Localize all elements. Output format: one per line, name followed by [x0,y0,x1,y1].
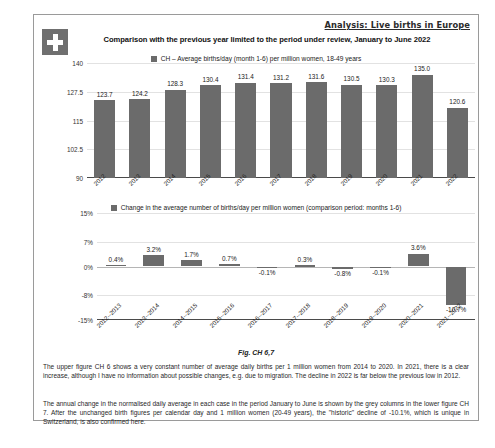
bar-value-label: 120.6 [440,98,475,105]
y-axis-tick-label: -8% [82,292,93,299]
y-axis-tick-label: 115 [73,117,83,124]
bar [181,260,202,266]
document-page: Analysis: Live births in Europe Comparis… [0,0,495,448]
bar-value-label: 131.4 [228,73,263,80]
bar [447,108,468,178]
bar [408,254,429,267]
bar [446,267,467,305]
gridline [87,63,475,64]
bar [94,100,115,178]
bar-value-label: 0.4% [97,256,135,263]
body-paragraph-1: The upper figure CH 6 shows a very const… [43,362,469,380]
bar-value-label: 1.7% [173,251,211,258]
bar [306,82,327,178]
bar [129,99,150,178]
gridline [97,267,475,268]
y-axis-tick-label: 102.5 [67,146,83,153]
bar-value-label: 3.6% [399,244,437,251]
bar [412,75,433,179]
bar [219,264,240,266]
bar [270,83,291,178]
legend-swatch-icon [111,205,117,211]
analysis-heading: Analysis: Live births in Europe [325,20,470,30]
bar-value-label: 0.7% [210,255,248,262]
chart1-legend: CH – Average births/day (month 1-6) per … [34,55,478,62]
bar-value-label: 3.2% [135,246,173,253]
bar-value-label: 130.3 [369,76,404,83]
bar [106,265,127,266]
y-axis-tick-label: 127.5 [67,88,83,95]
bar [332,267,353,270]
bar [295,265,316,266]
document-frame: Analysis: Live births in Europe Comparis… [33,14,479,421]
bar [200,85,221,178]
bar-value-label: 128.3 [158,80,193,87]
gridline [97,295,475,296]
y-axis-tick-label: 90 [76,175,83,182]
y-axis-tick-label: 140 [72,60,83,67]
chart2-x-axis: 2012--20132013--20142014--20152015--2016… [97,322,475,364]
bar [341,85,362,178]
chart2-legend: Change in the average number of births/d… [34,204,478,211]
bar-value-label: 130.4 [193,76,228,83]
page-title: Comparison with the previous year limite… [34,35,478,44]
figure-caption: Fig. CH 6,7 [34,349,478,356]
chart1-legend-label: CH – Average births/day (month 1-6) per … [161,55,362,62]
chart1-plot-area: 123.7124.2128.3130.4131.4131.2131.6130.5… [87,63,475,178]
bar-value-label: 131.6 [299,73,334,80]
chart-ch7: 0.4%3.2%1.7%0.7%-0.1%0.3%-0.8%-0.1%3.6%-… [97,213,475,320]
body-paragraph-2: The annual change in the normalised dail… [43,399,469,427]
y-axis-tick-label: 7% [84,238,93,245]
y-axis-tick-label: 0% [84,263,93,270]
gridline [97,242,475,243]
chart1-y-axis: 90102.5115127.5140 [57,63,83,178]
chart2-legend-label: Change in the average number of births/d… [121,204,402,211]
bar-value-label: -0.1% [362,269,400,276]
bar-value-label: 135.0 [404,65,439,72]
bar-value-label: 124.2 [122,90,157,97]
bar-value-label: 131.2 [263,74,298,81]
bar [257,267,278,268]
bar-value-label: -0.1% [248,269,286,276]
y-axis-tick-label: 15% [80,210,93,217]
bar [235,83,256,178]
gridline [97,213,475,214]
y-axis-tick-label: -15% [78,317,93,324]
bar-value-label: 0.3% [286,256,324,263]
bar [165,90,186,178]
chart-ch6: 123.7124.2128.3130.4131.4131.2131.6130.5… [87,63,475,178]
bar [143,255,164,266]
bar [370,267,391,268]
bar [376,85,397,178]
bar-value-label: -0.8% [324,270,362,277]
bar-value-label: 123.7 [87,91,122,98]
chart2-y-axis: -15%-8%0%7%15% [65,213,93,320]
bar-value-label: 130.5 [334,75,369,82]
legend-swatch-icon [151,56,157,62]
